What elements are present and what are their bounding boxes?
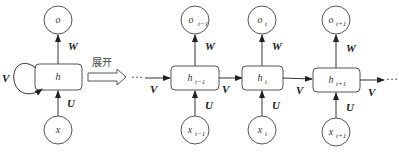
hidden-node-t [242, 66, 283, 90]
w-label-t: W [272, 40, 283, 52]
v-label-1: V [222, 83, 231, 95]
folded-w-label: W [68, 40, 79, 52]
step-t-minus-1: o t−1 W h t−1 U x t−1 [171, 6, 219, 144]
v-label-out: V [368, 86, 377, 98]
input-label-t-minus-1: x [187, 124, 193, 135]
folded-output-label: o [56, 14, 61, 25]
unfold-label: 展开 [92, 57, 112, 68]
hidden-sub-t-minus-1: t−1 [195, 78, 205, 86]
input-label-t-plus-1: x [328, 126, 334, 137]
output-label-t: o [258, 14, 263, 25]
folded-hidden-label: h [56, 71, 61, 82]
v-arrow-2 [283, 78, 312, 79]
input-sub-t-minus-1: t−1 [195, 130, 205, 138]
ellipsis-left: ··· [131, 70, 143, 84]
hidden-label-t-minus-1: h [188, 72, 193, 83]
folded-rnn: o W h V U x [2, 6, 82, 144]
output-sub-t-plus-1: t+1 [336, 20, 346, 28]
unfold-arrow: 展开 [88, 57, 126, 85]
u-label-t-plus-1: U [346, 101, 355, 113]
input-sub-t-plus-1: t+1 [336, 132, 346, 140]
u-label-t-minus-1: U [205, 99, 214, 111]
hidden-sub-t-plus-1: t+1 [336, 80, 346, 88]
hollow-arrow-icon [88, 69, 126, 85]
v-label-in: V [150, 83, 159, 95]
hidden-label-t: h [258, 72, 263, 83]
folded-u-label: U [67, 97, 76, 109]
w-label-t-plus-1: W [346, 42, 357, 54]
input-label-t: x [257, 124, 263, 135]
u-label-t: U [272, 99, 281, 111]
w-label-t-minus-1: W [205, 40, 216, 52]
v-label-2: V [296, 84, 305, 96]
rnn-diagram: o W h V U x 展开 ··· V o t−1 W h t−1 U x t… [0, 0, 399, 152]
folded-input-label: x [55, 124, 61, 135]
folded-v-label: V [2, 72, 11, 84]
output-label-t-minus-1: o [189, 14, 194, 25]
output-label-t-plus-1: o [329, 14, 334, 25]
output-sub-t-minus-1: t−1 [198, 20, 208, 28]
hidden-label-t-plus-1: h [329, 74, 334, 85]
ellipsis-right: ··· [386, 72, 398, 86]
step-t: o t W h t U x t [242, 6, 283, 144]
step-t-plus-1: o t+1 W h t+1 U x t+1 [313, 6, 360, 146]
